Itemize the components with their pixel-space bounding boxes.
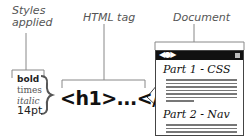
document-titlebar: ◀●▶	[156, 51, 243, 60]
document-heading-1: Part 1 - CSS	[163, 63, 231, 76]
document-window: ◀●▶ Part 1 - CSS Part 2 - Nav	[155, 50, 244, 136]
nav-arrows-icon: ◀●▶	[159, 50, 175, 60]
document-paragraph-1	[166, 79, 237, 104]
document-paragraph-2	[166, 124, 237, 135]
document-label: Document	[173, 12, 230, 24]
window-square-icon	[235, 53, 240, 58]
style-times: times	[17, 85, 42, 95]
html-tag-label: HTML tag	[83, 12, 135, 24]
styles-label-line2: applied	[12, 17, 53, 29]
styles-applied-label: Styles applied	[12, 5, 53, 29]
style-14pt: 14pt	[17, 106, 42, 116]
style-bold: bold	[17, 74, 39, 84]
document-heading-2: Part 2 - Nav	[163, 108, 230, 121]
